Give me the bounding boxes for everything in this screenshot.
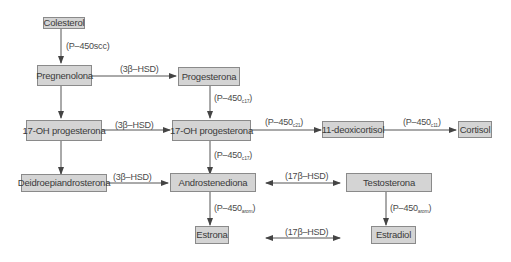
enzyme-close: ) <box>438 117 441 127</box>
enzyme-label-p450arom-1: (P–450arom) <box>214 204 255 214</box>
node-17oh-progesterona: 17-OH progesterona <box>172 120 251 141</box>
enzyme-label-17bhsd-1: (17β–HSD) <box>285 172 328 181</box>
node-cortisol: Cortisol <box>458 121 492 138</box>
node-estradiol: Estradiol <box>371 226 416 244</box>
enzyme-subscript: arom <box>242 208 253 214</box>
enzyme-close: ) <box>249 150 252 160</box>
enzyme-close: ) <box>428 203 431 213</box>
enzyme-close: ) <box>252 203 255 213</box>
node-colesterol: Colesterol <box>43 17 85 29</box>
node-11-deoxicortisol: 11-deoxicortisol <box>322 121 384 138</box>
enzyme-close: ) <box>300 117 303 127</box>
enzyme-close: ) <box>249 93 252 103</box>
enzyme-subscript: c11 <box>431 122 438 128</box>
node-testosterona: Testosterona <box>346 173 432 192</box>
node-17oh-progesterona-left: 17-OH progesterona <box>26 120 102 141</box>
enzyme-label-p450arom-2: (P–450arom) <box>390 204 431 214</box>
enzyme-label-3bhsd-3: (3β–HSD) <box>113 173 152 182</box>
node-androstenediona: Androstenediona <box>170 173 256 192</box>
enzyme-label-p450scc: (P–450scc) <box>66 42 110 51</box>
node-progesterona: Progesterona <box>178 67 240 86</box>
enzyme-label-3bhsd-1: (3β–HSD) <box>120 65 159 74</box>
enzyme-base: (P–450 <box>390 203 418 213</box>
enzyme-base: (P–450 <box>403 117 431 127</box>
steroidogenesis-diagram: Colesterol Pregnenolona Progesterona 17-… <box>0 0 511 262</box>
enzyme-label-3bhsd-2: (3β–HSD) <box>115 121 154 130</box>
enzyme-label-p450c11: (P–450c11) <box>403 118 441 128</box>
node-pregnenolona: Pregnenolona <box>37 65 92 86</box>
enzyme-subscript: arom <box>418 208 429 214</box>
enzyme-label-p450c17-1: (P–450c17) <box>214 94 252 104</box>
enzyme-label-17bhsd-2: (17β–HSD) <box>285 228 328 237</box>
enzyme-label-p450c17-2: (P–450c17) <box>214 151 252 161</box>
node-estrona: Estrona <box>195 226 229 244</box>
enzyme-label-p450c21: (P–450c21) <box>265 118 303 128</box>
enzyme-base: (P–450 <box>214 93 242 103</box>
enzyme-base: (P–450 <box>214 203 242 213</box>
enzyme-base: (P–450 <box>214 150 242 160</box>
enzyme-base: (P–450 <box>265 117 293 127</box>
node-deidroepiandrosterona: Deidroepiandrosterona <box>21 174 107 192</box>
